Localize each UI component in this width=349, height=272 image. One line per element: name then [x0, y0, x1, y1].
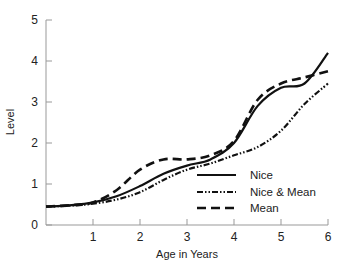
y-tick-label: 4	[31, 54, 38, 68]
y-axis-label: Level	[4, 109, 16, 135]
legend-label: Mean	[250, 202, 279, 214]
legend: NiceNice & MeanMean	[197, 169, 316, 214]
x-tick-label: 5	[278, 230, 285, 244]
legend-label: Nice & Mean	[250, 186, 316, 198]
x-tick-label: 1	[90, 230, 97, 244]
y-tick-label: 2	[31, 136, 38, 150]
x-axis-label: Age in Years	[156, 248, 218, 260]
x-tick-label: 2	[137, 230, 144, 244]
plot-lines	[46, 53, 328, 207]
line-chart: 012345123456 NiceNice & MeanMean Age in …	[0, 0, 349, 272]
series-nice-line	[46, 53, 328, 207]
x-tick-label: 3	[184, 230, 191, 244]
axes: 012345123456	[31, 13, 331, 244]
y-tick-label: 5	[31, 13, 38, 27]
x-tick-label: 4	[231, 230, 238, 244]
x-tick-label: 6	[325, 230, 332, 244]
y-tick-label: 0	[31, 218, 38, 232]
y-tick-label: 1	[31, 177, 38, 191]
legend-label: Nice	[250, 169, 273, 181]
y-tick-label: 3	[31, 95, 38, 109]
